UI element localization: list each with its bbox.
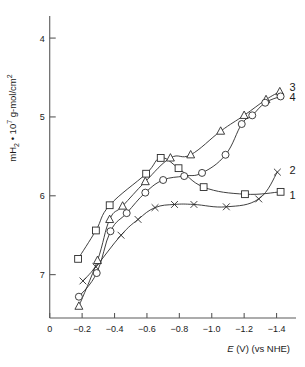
data-point-marker-triangle (187, 150, 195, 157)
x-axis-ticks: 0−0.2−0.4−0.6−0.8−1.0−1.2−1.4 (47, 313, 285, 334)
series-line-4 (79, 96, 281, 296)
series-labels-group: 1234 (290, 81, 296, 201)
y-axis-label: mH2 • 107 g-mol/cm2 (6, 74, 20, 161)
series-label-2: 2 (290, 164, 296, 176)
data-point-marker-circle (262, 99, 269, 106)
data-point-marker-circle (249, 112, 256, 119)
data-point-marker-circle (222, 151, 229, 158)
data-point-marker-circle (93, 270, 100, 277)
data-point-marker-cross (152, 204, 159, 211)
data-point-marker-circle (142, 189, 149, 196)
y-axis-ticks: 4567 (40, 34, 56, 281)
figure-container: 4567 0−0.2−0.4−0.6−0.8−1.0−1.2−1.4 1234 … (0, 0, 305, 367)
data-point-marker-square (106, 202, 113, 209)
data-point-marker-triangle (106, 215, 114, 222)
x-tick-label: −1.4 (268, 324, 286, 334)
data-point-marker-square (277, 188, 284, 195)
series-line-2 (83, 172, 277, 281)
data-point-marker-circle (160, 177, 167, 184)
x-tick-label: −1.0 (203, 324, 221, 334)
x-tick-label: −1.2 (235, 324, 253, 334)
y-tick-label: 4 (40, 34, 45, 44)
data-point-marker-triangle (166, 154, 174, 161)
data-point-marker-cross (255, 196, 262, 203)
x-tick-label: −0.4 (106, 324, 124, 334)
data-point-marker-circle (199, 169, 206, 176)
data-point-marker-square (143, 170, 150, 177)
data-point-marker-cross (274, 169, 281, 176)
data-point-marker-circle (277, 93, 284, 100)
line-chart: 4567 0−0.2−0.4−0.6−0.8−1.0−1.2−1.4 1234 … (0, 0, 305, 367)
data-point-marker-square (242, 191, 249, 198)
data-series-group (75, 87, 284, 309)
data-point-marker-triangle (217, 127, 225, 134)
y-tick-label: 6 (40, 191, 45, 201)
series-4 (75, 93, 284, 300)
data-point-marker-circle (123, 210, 130, 217)
series-label-4: 4 (290, 91, 296, 103)
data-point-marker-square (175, 165, 182, 172)
data-point-marker-square (200, 184, 207, 191)
data-point-marker-triangle (75, 302, 83, 309)
data-point-marker-square (157, 155, 164, 162)
y-tick-label: 5 (40, 112, 45, 122)
series-label-1: 1 (290, 189, 296, 201)
series-2 (80, 169, 281, 285)
data-point-marker-cross (118, 232, 125, 239)
x-tick-label: −0.2 (73, 324, 91, 334)
data-point-marker-circle (238, 121, 245, 128)
x-axis-label: E (V) (vs NHE) (227, 343, 290, 354)
data-point-marker-triangle (240, 111, 248, 118)
series-3 (75, 87, 284, 309)
data-point-marker-circle (75, 293, 82, 300)
series-line-3 (79, 92, 280, 306)
data-point-marker-circle (181, 173, 188, 180)
axes-group (50, 16, 296, 318)
data-point-marker-square (92, 227, 99, 234)
data-point-marker-square (75, 255, 82, 262)
data-point-marker-circle (107, 228, 114, 235)
data-point-marker-cross (80, 278, 87, 285)
y-tick-label: 7 (40, 270, 45, 280)
x-tick-label: −0.8 (170, 324, 188, 334)
data-point-marker-cross (135, 216, 142, 223)
series-1 (75, 155, 284, 263)
x-tick-label: 0 (47, 324, 52, 334)
x-tick-label: −0.6 (138, 324, 156, 334)
